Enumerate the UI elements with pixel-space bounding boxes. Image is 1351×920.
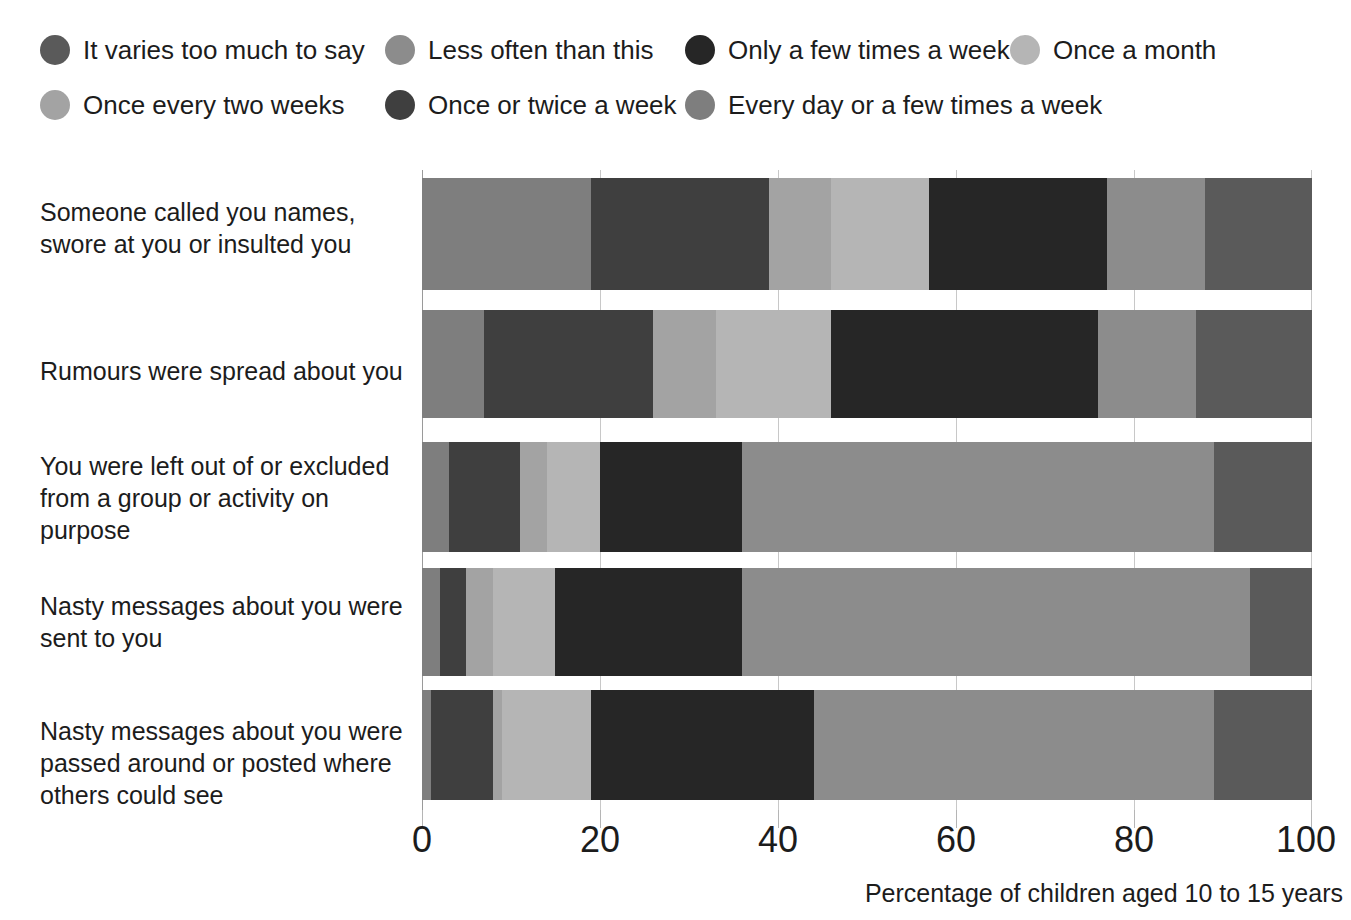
bar-segment[interactable] [547,442,600,552]
bar-segment[interactable] [422,442,449,552]
bar-row [422,568,1312,676]
legend-label: Every day or a few times a week [728,90,1102,120]
bar-segment[interactable] [600,442,742,552]
bar-segment[interactable] [742,442,1214,552]
bar-segment[interactable] [831,310,1098,418]
bar-segment[interactable] [1205,178,1312,290]
legend-swatch-icon [1010,35,1040,65]
legend-item-only-a-few-times-a-week[interactable]: Only a few times a week [685,35,1010,65]
bar-row [422,310,1312,418]
xtick-label-100: 100 [1276,818,1336,862]
legend-swatch-icon [685,90,715,120]
bar-segment[interactable] [1098,310,1196,418]
legend-swatch-icon [685,35,715,65]
category-label-0: Someone called you names, swore at you o… [40,196,412,260]
bar-segment[interactable] [422,178,591,290]
bar-segment[interactable] [422,690,431,800]
bar-segment[interactable] [555,568,742,676]
legend-label: Only a few times a week [728,35,1010,65]
legend-row-2: Once every two weeks Once or twice a wee… [40,77,1340,132]
bar-segment[interactable] [520,442,547,552]
bar-segment[interactable] [742,568,1249,676]
legend-label: Once every two weeks [83,90,345,120]
legend-item-every-day-or-a-few-times-a-week[interactable]: Every day or a few times a week [685,90,1102,120]
bar-segment[interactable] [653,310,715,418]
bar-segment[interactable] [1196,310,1312,418]
bar-segment[interactable] [422,568,440,676]
bar-row [422,690,1312,800]
legend-swatch-icon [40,35,70,65]
legend-label: Once a month [1053,35,1216,65]
bar-row [422,178,1312,290]
category-label-3: Nasty messages about you were sent to yo… [40,590,412,654]
bar-segment[interactable] [431,690,493,800]
legend-label: Less often than this [428,35,653,65]
x-axis-title: Percentage of children aged 10 to 15 yea… [865,878,1343,908]
bar-segment[interactable] [422,310,484,418]
bar-segment[interactable] [493,568,555,676]
bar-segment[interactable] [493,690,502,800]
bar-segment[interactable] [449,442,520,552]
category-axis-labels: Someone called you names, swore at you o… [40,170,410,810]
xtick-label-80: 80 [1114,818,1154,862]
legend-item-it-varies-too-much-to-say[interactable]: It varies too much to say [40,35,385,65]
bar-segment[interactable] [502,690,591,800]
bar-segment[interactable] [484,310,653,418]
legend-row-1: It varies too much to say Less often tha… [40,22,1340,77]
legend-swatch-icon [40,90,70,120]
category-label-2: You were left out of or excluded from a … [40,450,412,546]
bar-segment[interactable] [1250,568,1312,676]
bar-segment[interactable] [831,178,929,290]
legend-label: It varies too much to say [83,35,365,65]
plot-area [422,170,1312,810]
xtick-label-60: 60 [936,818,976,862]
xtick-label-0: 0 [412,818,432,862]
bar-segment[interactable] [1107,178,1205,290]
bar-row [422,442,1312,552]
bar-segment[interactable] [716,310,832,418]
bar-segment[interactable] [466,568,493,676]
category-label-1: Rumours were spread about you [40,355,412,387]
bar-segment[interactable] [1214,690,1312,800]
bar-segment[interactable] [1214,442,1312,552]
legend-swatch-icon [385,35,415,65]
bar-series-container [422,170,1312,810]
xtick-label-40: 40 [758,818,798,862]
legend-item-less-often-than-this[interactable]: Less often than this [385,35,685,65]
bar-segment[interactable] [769,178,831,290]
bar-segment[interactable] [814,690,1215,800]
legend-label: Once or twice a week [428,90,677,120]
bar-segment[interactable] [591,690,814,800]
bar-segment[interactable] [591,178,769,290]
xtick-label-20: 20 [580,818,620,862]
legend-item-once-every-two-weeks[interactable]: Once every two weeks [40,90,385,120]
bar-segment[interactable] [929,178,1107,290]
stacked-bar-chart: It varies too much to say Less often tha… [0,0,1351,920]
category-label-4: Nasty messages about you were passed aro… [40,715,412,811]
bar-segment[interactable] [440,568,467,676]
legend-item-once-a-month[interactable]: Once a month [1010,35,1216,65]
legend-item-once-or-twice-a-week[interactable]: Once or twice a week [385,90,685,120]
legend-swatch-icon [385,90,415,120]
chart-legend: It varies too much to say Less often tha… [40,22,1340,132]
